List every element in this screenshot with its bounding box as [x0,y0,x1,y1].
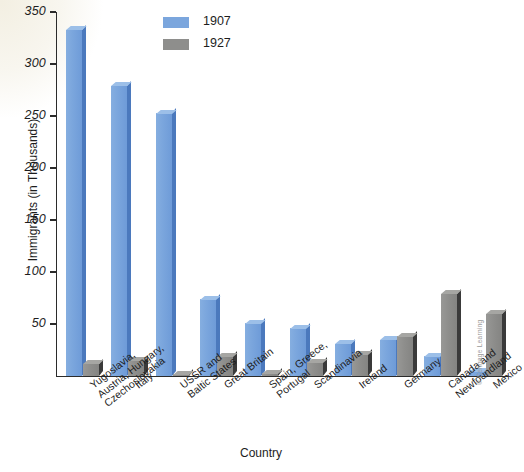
y-axis-line [56,12,57,377]
y-tick-mark [50,167,56,168]
bar-1907-2 [156,113,172,376]
bar-top [156,110,177,114]
bar-face [397,336,413,376]
bar-face [66,30,82,376]
bar-side [457,289,461,376]
legend-label-1927: 1927 [203,36,231,50]
y-tick-mark [50,323,56,324]
y-tick-mark [50,271,56,272]
bar-1927-8 [441,294,457,376]
bar-1927-7 [397,336,413,376]
legend-swatch-1907-icon [163,17,189,28]
legend-label-1907: 1907 [203,14,231,28]
y-tick-mark [50,219,56,220]
y-tick-label: 350 [25,4,46,18]
bar-side [127,81,131,376]
y-tick-label: 50 [32,316,46,330]
bar-face [156,113,172,376]
legend-swatch-1927-icon [163,39,189,50]
y-tick-label: 300 [25,56,46,70]
bar-face [441,294,457,376]
bar-side [172,108,176,376]
bar-1907-0 [66,30,82,376]
y-tick-mark [50,11,56,12]
x-axis-title: Country [0,446,522,460]
copyright-credit: © Cengage Learning [476,295,483,385]
y-tick-mark [50,115,56,116]
y-axis-title: Immigrants (in Thousands) [26,95,40,285]
bar-side [82,25,86,376]
y-tick-mark [50,63,56,64]
bar-face [111,86,127,376]
bar-1907-1 [111,86,127,376]
